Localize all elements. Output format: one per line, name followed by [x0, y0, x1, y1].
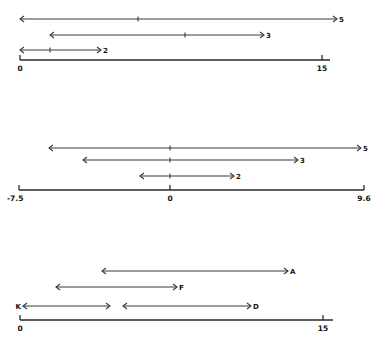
axis: 015: [17, 315, 333, 333]
interval-label: 2: [103, 47, 108, 55]
axis-tick-label: 9.6: [357, 194, 370, 203]
interval-label: 3: [300, 157, 305, 165]
interval-2: 2: [140, 173, 241, 181]
interval-label: 5: [339, 16, 344, 24]
axis-tick-label: 15: [318, 324, 328, 333]
axis: -7.509.6: [7, 185, 371, 203]
interval-label: 3: [266, 32, 271, 40]
interval-K: K: [16, 303, 110, 311]
axis-tick-label: -7.5: [7, 194, 23, 203]
interval-label: K: [16, 303, 22, 311]
panel-bottom: AFKD015: [16, 268, 333, 334]
interval-label: 5: [363, 145, 368, 153]
interval-A: A: [102, 268, 296, 276]
interval-F: F: [56, 284, 184, 292]
axis-tick-label: 0: [17, 324, 22, 333]
interval-2: 2: [20, 47, 108, 55]
axis-tick-label: 15: [317, 64, 327, 73]
interval-diagram: 532015532-7.509.6AFKD015: [0, 0, 380, 345]
panel-middle: 532-7.509.6: [7, 145, 371, 204]
interval-3: 3: [50, 32, 271, 40]
axis-tick-label: 0: [17, 64, 22, 73]
interval-label: D: [253, 303, 259, 311]
interval-label: A: [290, 268, 296, 276]
interval-5: 5: [20, 16, 344, 24]
axis-tick-label: 0: [167, 194, 172, 203]
panel-top: 532015: [17, 16, 344, 74]
interval-label: 2: [236, 173, 241, 181]
interval-3: 3: [83, 157, 305, 165]
interval-label: F: [179, 284, 184, 292]
interval-D: D: [123, 303, 259, 311]
interval-5: 5: [49, 145, 368, 153]
axis: 015: [17, 55, 330, 73]
